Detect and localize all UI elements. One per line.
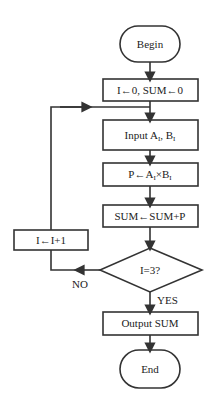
product-label: P←AI×BI	[128, 168, 172, 182]
decision-label: I=3?	[140, 264, 160, 276]
increment-label: I←I+1	[36, 234, 66, 246]
flowchart: Begin I←0, SUM←0 Input AI, BI P←AI×BI SU…	[0, 0, 214, 403]
no-label: NO	[72, 278, 88, 290]
output-label: Output SUM	[121, 317, 178, 329]
end-label: End	[141, 363, 159, 375]
input-label: Input AI, BI	[125, 129, 177, 143]
begin-label: Begin	[137, 38, 164, 50]
init-label: I←0, SUM←0	[117, 84, 184, 96]
accumulate-label: SUM←SUM+P	[114, 210, 185, 222]
yes-label: YES	[157, 294, 178, 306]
